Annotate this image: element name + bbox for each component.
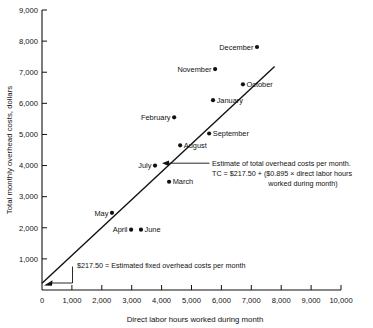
y-tick-label: 4,000 (19, 161, 38, 170)
data-point-marker (172, 115, 176, 119)
y-tick-label: 5,000 (19, 130, 38, 139)
data-point: November (177, 65, 217, 74)
data-point-label: January (217, 96, 244, 105)
data-point-label: March (173, 177, 194, 186)
fixed-cost-callout-leader (50, 267, 73, 284)
data-point-marker (207, 131, 211, 135)
data-point-label: August (184, 141, 207, 150)
x-tick-label: 1,000 (62, 296, 81, 305)
y-tick-label: 1,000 (19, 255, 38, 264)
regression-callout-arrowhead (162, 160, 169, 166)
y-axis-ticks: 1,0002,0003,0004,0005,0006,0007,0008,000… (19, 6, 47, 264)
x-tick-label: 7,000 (242, 296, 261, 305)
data-point-label: May (94, 209, 108, 218)
regression-annotation-line-3: worked during month) (267, 179, 338, 188)
regression-annotation-line-1: Estimate of total overhead costs per mon… (212, 159, 351, 168)
y-tick-label: 6,000 (19, 99, 38, 108)
data-point-label: February (141, 113, 171, 122)
regression-annotation-line-2: TC = $217.50 + ($0.895 × direct labor ho… (212, 169, 352, 178)
x-tick-label: 2,000 (92, 296, 111, 305)
data-point: September (207, 129, 249, 138)
data-point-label: November (177, 65, 212, 74)
data-point-label: September (213, 129, 250, 138)
x-tick-label: 6,000 (212, 296, 231, 305)
x-tick-label: 3,000 (122, 296, 141, 305)
data-point-label: October (247, 80, 274, 89)
data-point-marker (153, 163, 157, 167)
y-tick-label: 8,000 (19, 37, 38, 46)
data-points-group: MayAprilJuneJulyMarchFebruaryAugustSepte… (94, 43, 273, 235)
x-axis-title: Direct labor hours worked during month (127, 315, 264, 324)
data-point-marker (129, 228, 133, 232)
y-tick-label: 9,000 (19, 6, 38, 15)
x-tick-label: 0 (40, 296, 44, 305)
data-point-label: June (145, 225, 161, 234)
x-tick-label: 10,000 (329, 296, 352, 305)
x-tick-label: 5,000 (182, 296, 201, 305)
y-tick-label: 7,000 (19, 68, 38, 77)
data-point: June (139, 225, 161, 234)
data-point-marker (211, 98, 215, 102)
data-point: February (141, 113, 176, 122)
y-tick-label: 3,000 (19, 192, 38, 201)
data-point: April (113, 225, 133, 234)
data-point-marker (167, 180, 171, 184)
data-point: August (178, 141, 207, 150)
data-point-marker (178, 143, 182, 147)
x-axis-ticks: 01,0002,0003,0004,0005,0006,0007,0008,00… (40, 285, 353, 305)
data-point-label: April (113, 225, 128, 234)
data-point-label: July (138, 161, 151, 170)
chart-canvas: 1,0002,0003,0004,0005,0006,0007,0008,000… (0, 0, 373, 328)
regression-annotation-text: Estimate of total overhead costs per mon… (212, 159, 352, 188)
data-point-marker (241, 82, 245, 86)
x-tick-label: 9,000 (302, 296, 321, 305)
data-point: October (241, 80, 274, 89)
data-point-marker (213, 67, 217, 71)
fixed-cost-annotation-text: $217.50 = Estimated fixed overhead costs… (77, 261, 245, 270)
y-axis-title: Total monthly overhead costs, dollars (5, 86, 14, 214)
x-tick-label: 8,000 (272, 296, 291, 305)
data-point: July (138, 161, 157, 170)
data-point-label: December (219, 43, 254, 52)
x-tick-label: 4,000 (152, 296, 171, 305)
data-point-marker (139, 228, 143, 232)
data-point: March (167, 177, 193, 186)
data-point-marker (255, 45, 259, 49)
data-point: December (219, 43, 259, 52)
y-tick-label: 2,000 (19, 224, 38, 233)
data-point: May (94, 209, 114, 218)
data-point-marker (110, 211, 114, 215)
fixed-cost-annotation-line-1: $217.50 = Estimated fixed overhead costs… (77, 261, 245, 270)
overhead-cost-scatter-chart: 1,0002,0003,0004,0005,0006,0007,0008,000… (0, 0, 373, 328)
data-point: January (211, 96, 243, 105)
